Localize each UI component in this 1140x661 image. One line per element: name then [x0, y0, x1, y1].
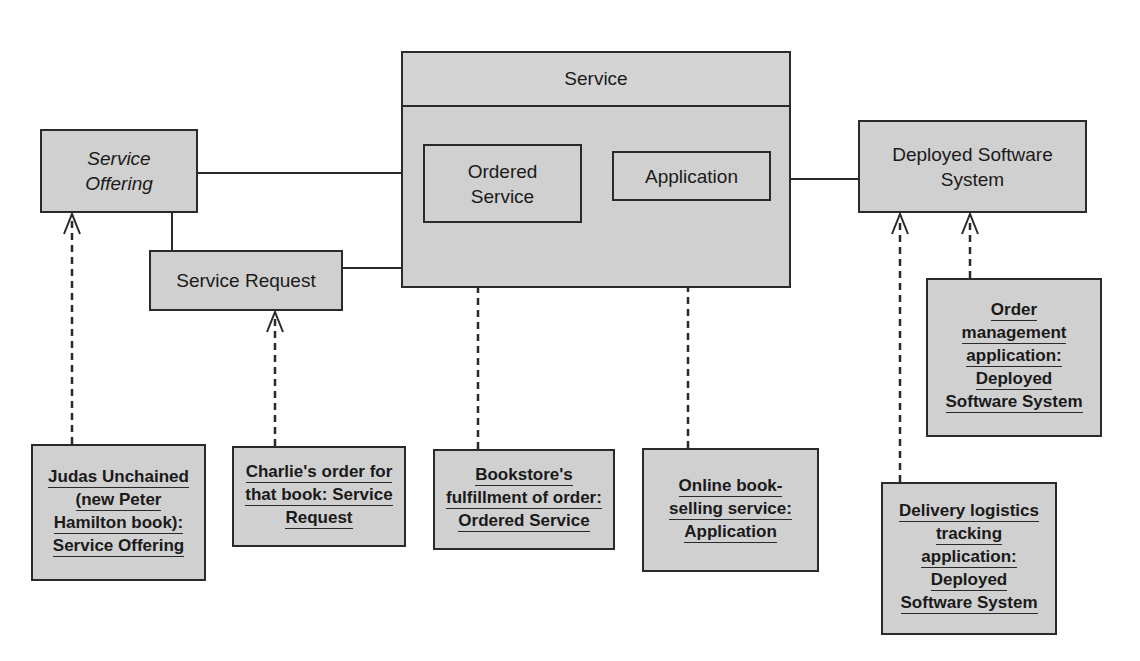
- instance-line: Deployed: [931, 570, 1008, 591]
- instance-line: application:: [966, 346, 1061, 367]
- instance-line: application:: [921, 547, 1016, 568]
- application-label: Application: [645, 164, 738, 189]
- instance-line: that book: Service: [245, 485, 392, 506]
- arrowhead-icon: [962, 214, 978, 234]
- instance-line: Bookstore's: [475, 465, 573, 486]
- instance-line: Hamilton book):: [54, 513, 183, 534]
- instance-line: selling service:: [669, 499, 792, 520]
- arrowhead-icon: [267, 312, 283, 332]
- ordered-service-line1: Ordered: [468, 159, 538, 184]
- application-class: Application: [612, 151, 771, 201]
- instance-line: Order: [991, 300, 1037, 321]
- service-offering-class: Service Offering: [40, 129, 198, 213]
- service-header: Service: [403, 53, 789, 107]
- ordered-service-class: Ordered Service: [423, 144, 582, 223]
- instance-judas-unchained: Judas Unchained (new Peter Hamilton book…: [31, 444, 206, 581]
- ordered-service-line2: Service: [471, 184, 534, 209]
- deployed-software-system-class: Deployed Software System: [858, 120, 1087, 213]
- instance-bookstore-fulfillment: Bookstore's fulfillment of order: Ordere…: [433, 449, 615, 550]
- deployed-line1: Deployed Software: [892, 142, 1053, 167]
- instance-line: Software System: [946, 392, 1083, 413]
- instance-line: Judas Unchained: [48, 467, 189, 488]
- service-request-label: Service Request: [176, 268, 315, 293]
- instance-line: Application: [684, 522, 777, 543]
- service-offering-line2: Offering: [85, 171, 153, 196]
- instance-line: management: [962, 323, 1067, 344]
- instance-online-bookselling: Online book- selling service: Applicatio…: [642, 448, 819, 572]
- instance-line: Service Offering: [53, 536, 184, 557]
- instance-line: tracking: [936, 524, 1002, 545]
- service-request-class: Service Request: [149, 250, 343, 311]
- instance-line: Deployed: [976, 369, 1053, 390]
- instance-line: Request: [285, 508, 352, 529]
- arrowhead-icon: [64, 214, 80, 234]
- instance-line: Charlie's order for: [246, 462, 393, 483]
- instance-line: (new Peter: [76, 490, 162, 511]
- instance-line: Delivery logistics: [899, 501, 1039, 522]
- service-offering-line1: Service: [87, 146, 150, 171]
- instance-order-management: Order management application: Deployed S…: [926, 278, 1102, 437]
- instance-delivery-logistics: Delivery logistics tracking application:…: [881, 482, 1057, 635]
- instance-line: fulfillment of order:: [446, 488, 602, 509]
- instance-line: Online book-: [679, 476, 783, 497]
- instance-charlies-order: Charlie's order for that book: Service R…: [232, 446, 406, 547]
- arrowhead-icon: [892, 214, 908, 234]
- deployed-line2: System: [941, 167, 1004, 192]
- instance-line: Ordered Service: [458, 511, 589, 532]
- instance-line: Software System: [901, 593, 1038, 614]
